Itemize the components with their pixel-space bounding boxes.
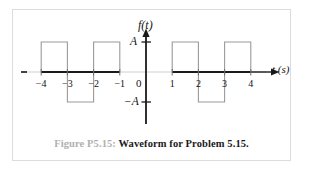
caption-text: Waveform for Problem 5.15. bbox=[119, 138, 249, 149]
x-tick-label-1: 1 bbox=[162, 78, 182, 89]
caption-label: Figure P5.15: bbox=[54, 138, 116, 149]
plot-area: f(t) t (s) A −A 0 −4 −3 −2 −1 1 2 3 4 bbox=[0, 0, 314, 177]
y-tick-label-positive-A: A bbox=[130, 35, 137, 47]
y-tick-label-negative-A: −A bbox=[124, 95, 139, 107]
x-axis-label: t (s) bbox=[272, 63, 289, 75]
x-tick-label-neg2: −2 bbox=[84, 78, 104, 89]
pulse-neg2-neg1 bbox=[94, 42, 120, 72]
x-tick-label-2: 2 bbox=[188, 78, 208, 89]
x-tick-label-3: 3 bbox=[215, 78, 235, 89]
y-axis bbox=[142, 29, 149, 125]
y-axis-label: f(t) bbox=[138, 18, 153, 33]
x-tick-label-4: 4 bbox=[241, 78, 261, 89]
origin-label: 0 bbox=[136, 77, 142, 89]
pulse-3-4 bbox=[225, 42, 251, 72]
pulse-1-2 bbox=[172, 42, 198, 72]
x-tick-label-neg4: −4 bbox=[31, 78, 51, 89]
figure-caption: Figure P5.15: Waveform for Problem 5.15. bbox=[12, 137, 291, 150]
x-tick-label-neg1: −1 bbox=[110, 78, 130, 89]
x-tick-label-neg3: −3 bbox=[57, 78, 77, 89]
figure-container: f(t) t (s) A −A 0 −4 −3 −2 −1 1 2 3 4 Fi… bbox=[0, 0, 314, 177]
pulse-neg4-neg3 bbox=[41, 42, 67, 72]
